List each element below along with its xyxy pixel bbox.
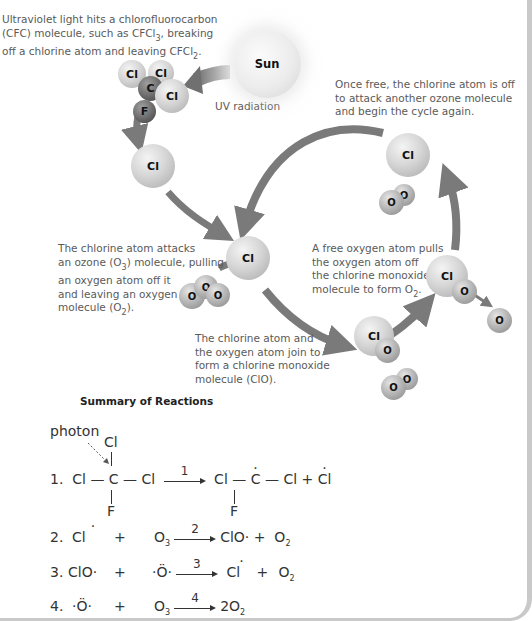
free-o-atom: O bbox=[487, 308, 512, 333]
photon-label: photon bbox=[50, 423, 99, 439]
reaction-2: 2.Cl+O32ClO· + O2 bbox=[50, 528, 290, 548]
top-cl-atom: Cl bbox=[386, 133, 430, 177]
r1-bottom-bond bbox=[111, 490, 112, 504]
uv-arrow bbox=[183, 66, 230, 94]
reaction-3: 3.ClO·+·Ö·3 Cl+O2 bbox=[50, 563, 295, 583]
arrow-cl-to-center bbox=[168, 192, 222, 234]
r1-rhs-bottom-f: F bbox=[230, 503, 238, 519]
arrow-right-to-top bbox=[448, 178, 456, 250]
caption-free-oxygen: A free oxygen atom pulls the oxygen atom… bbox=[312, 242, 443, 301]
r2-arrow: 2 bbox=[174, 528, 216, 542]
center-cl-atom: Cl bbox=[226, 236, 270, 280]
caption-uv-hits: Ultraviolet light hits a chlorofluorocar… bbox=[2, 13, 218, 64]
r1-top-cl: Cl bbox=[104, 434, 118, 450]
r4-arrow: 4 bbox=[174, 597, 216, 611]
r1-bottom-f: F bbox=[107, 503, 115, 519]
reaction-1: 1. Cl — C — Cl 1 Cl — C — Cl + Cl bbox=[50, 470, 331, 487]
top-o2-atom-1: O bbox=[379, 190, 404, 215]
clo-o-atom: O bbox=[375, 338, 400, 363]
r3-arrow: 3 bbox=[176, 563, 218, 577]
cfc-f-atom: F bbox=[133, 100, 156, 123]
caption-uv-radiation: UV radiation bbox=[215, 100, 280, 114]
summary-title: Summary of Reactions bbox=[80, 395, 213, 407]
r1-arrow: 1 bbox=[164, 470, 206, 484]
caption-join: The chlorine atom and the oxygen atom jo… bbox=[195, 332, 330, 386]
cfc-cl-atom-3: Cl bbox=[155, 79, 189, 113]
free-cl-atom: Cl bbox=[131, 144, 175, 188]
sun: Sun bbox=[233, 30, 301, 98]
r1-top-bond bbox=[111, 452, 112, 466]
caption-once-free: Once free, the chlorine atom is off to a… bbox=[335, 78, 515, 119]
reaction-4: 4.·Ö·+O342O2 bbox=[50, 597, 245, 617]
r1-rhs-bottom-bond bbox=[234, 490, 235, 504]
ozone-o-atom-3: O bbox=[206, 283, 230, 307]
o2-bottom-atom-1: O bbox=[381, 375, 406, 400]
arrow-cycle-top bbox=[245, 129, 383, 225]
right-o-atom: O bbox=[452, 279, 477, 304]
